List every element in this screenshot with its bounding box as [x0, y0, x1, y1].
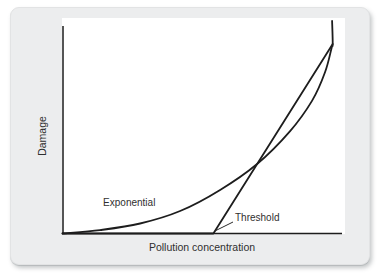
y-axis-label: Damage — [36, 116, 48, 156]
threshold-curve-label: Threshold — [235, 212, 279, 223]
damage-vs-pollution-chart: Exponential Threshold Pollution concentr… — [0, 0, 383, 280]
exponential-curve-label: Exponential — [103, 197, 155, 208]
figure-canvas: Exponential Threshold Pollution concentr… — [0, 0, 383, 280]
x-axis-label: Pollution concentration — [149, 241, 255, 253]
